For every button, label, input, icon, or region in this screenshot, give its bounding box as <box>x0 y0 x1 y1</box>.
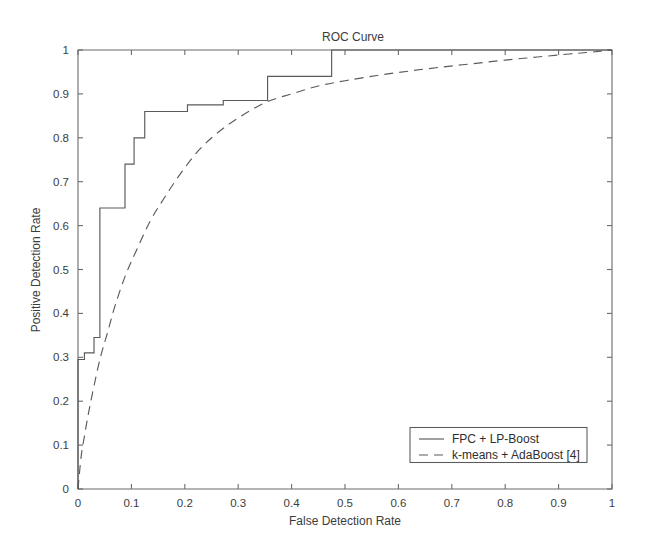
x-tick-label: 0.6 <box>390 497 406 509</box>
x-tick-label: 0 <box>75 497 81 509</box>
y-tick-label: 0.1 <box>53 439 69 451</box>
x-tick-label: 0.4 <box>284 497 301 509</box>
x-tick-label: 0.8 <box>497 497 513 509</box>
plot-frame <box>78 50 612 489</box>
y-tick-label: 0.7 <box>53 176 69 188</box>
chart-legend: FPC + LP-Boost k-means + AdaBoost [4] <box>410 428 587 463</box>
y-tick-label: 1 <box>63 44 69 56</box>
series-line-0 <box>78 50 612 489</box>
x-tick-label: 0.9 <box>551 497 567 509</box>
legend-label-1: k-means + AdaBoost [4] <box>452 448 580 462</box>
y-tick-label: 0.8 <box>53 132 69 144</box>
x-axis-title: False Detection Rate <box>289 514 401 528</box>
y-axis-ticks <box>78 50 612 489</box>
y-tick-label: 0.2 <box>53 395 69 407</box>
x-axis-tick-labels: 00.10.20.30.40.50.60.70.80.91 <box>75 497 615 509</box>
y-axis-tick-labels: 00.10.20.30.40.50.60.70.80.91 <box>53 44 70 495</box>
y-tick-label: 0.3 <box>53 351 69 363</box>
data-series-layer <box>78 50 612 489</box>
x-tick-label: 1 <box>609 497 615 509</box>
series-line-1 <box>78 50 612 489</box>
y-tick-label: 0.4 <box>53 307 70 319</box>
chart-title: ROC Curve <box>322 30 384 44</box>
x-tick-label: 0.7 <box>444 497 460 509</box>
y-axis-title: Positive Detection Rate <box>29 207 43 332</box>
x-tick-label: 0.5 <box>337 497 353 509</box>
x-axis-ticks <box>78 50 612 489</box>
y-tick-label: 0.6 <box>53 220 69 232</box>
x-tick-label: 0.3 <box>230 497 246 509</box>
roc-curve-figure: ROC Curve 00.10.20.30.40.50.60.70.80.91 … <box>0 0 646 554</box>
y-tick-label: 0.5 <box>53 264 69 276</box>
chart-canvas: ROC Curve 00.10.20.30.40.50.60.70.80.91 … <box>0 0 646 554</box>
legend-label-0: FPC + LP-Boost <box>452 432 540 446</box>
x-tick-label: 0.2 <box>177 497 193 509</box>
y-tick-label: 0.9 <box>53 88 69 100</box>
x-tick-label: 0.1 <box>123 497 139 509</box>
y-tick-label: 0 <box>63 483 69 495</box>
